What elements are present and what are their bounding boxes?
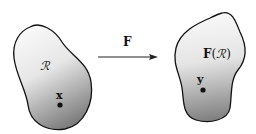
domain-point-label: x — [56, 89, 63, 102]
image-region: F(ℛ) y — [175, 13, 245, 122]
image-region-label: F(ℛ) — [203, 47, 231, 61]
domain-point-dot — [57, 102, 62, 107]
mapping-diagram: ℛ x F F(ℛ) y — [0, 0, 256, 134]
domain-region: ℛ x — [14, 25, 92, 129]
image-point-label: y — [196, 73, 204, 86]
domain-region-outline — [14, 25, 92, 129]
image-point-dot — [200, 87, 205, 92]
mapping-arrow: F — [98, 35, 158, 60]
image-region-outline — [175, 13, 245, 122]
mapping-label: F — [123, 35, 132, 49]
domain-region-label: ℛ — [40, 59, 51, 73]
